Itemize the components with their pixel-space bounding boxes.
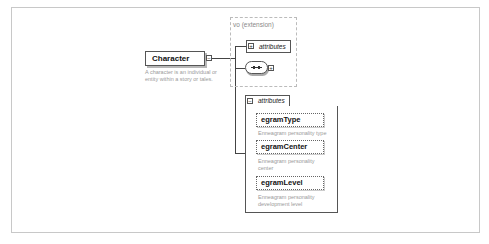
attribute-name: egramLevel <box>261 178 303 187</box>
expand-icon[interactable]: + <box>248 43 254 49</box>
sequence-compositor[interactable] <box>245 61 268 74</box>
element-description: A character is an individual or entity w… <box>145 69 220 82</box>
sequence-expand-icon[interactable]: + <box>268 65 274 71</box>
element-name: Character <box>152 54 189 63</box>
sequence-icon <box>251 67 262 68</box>
attribute-description: Enneagram personality type <box>258 130 336 137</box>
attribute-name: egramType <box>261 115 300 124</box>
attribute-description: Enneagram personality center <box>258 158 318 171</box>
attribute-description: Enneagram personality development level <box>258 194 323 207</box>
extension-label: vo (extension) <box>233 21 274 28</box>
attributes-label: attributes <box>258 97 285 104</box>
attribute-name: egramCenter <box>261 142 307 151</box>
connector <box>235 153 245 154</box>
extension-attributes-label: attributes <box>259 43 286 50</box>
attribute-egramlevel[interactable]: egramLevel <box>256 176 324 190</box>
element-character[interactable]: Character <box>145 51 205 66</box>
attribute-egramcenter[interactable]: egramCenter <box>256 140 324 154</box>
attribute-egramtype[interactable]: egramType <box>256 113 324 127</box>
collapse-attributes-icon[interactable]: − <box>247 98 253 104</box>
